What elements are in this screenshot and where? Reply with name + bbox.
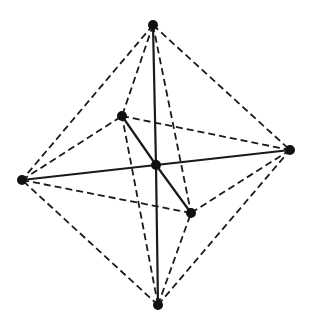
vertex-top — [148, 20, 158, 30]
vertex-right — [285, 145, 295, 155]
vertex-center — [151, 160, 161, 170]
vertex-back-left — [117, 111, 127, 121]
vertex-left — [17, 175, 27, 185]
vertex-front-right — [186, 208, 196, 218]
vertex-bottom — [153, 300, 163, 310]
octahedron-diagram — [0, 0, 314, 327]
